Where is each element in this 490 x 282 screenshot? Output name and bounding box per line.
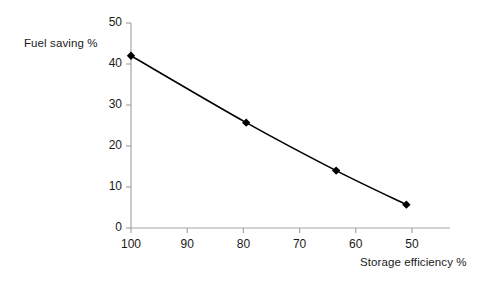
x-tick-label: 90 [170,237,204,251]
x-tick-label: 60 [339,237,373,251]
y-tick-label: 30 [92,97,122,111]
y-tick-label: 40 [92,56,122,70]
y-tick-label: 0 [92,220,122,234]
x-tick-label: 100 [114,237,148,251]
series-line-fuel-saving [131,56,406,205]
x-tick-label: 70 [283,237,317,251]
data-point-marker [332,166,340,174]
chart-container: Fuel saving % Storage efficiency % 01020… [0,0,490,282]
tick-marks [126,23,412,233]
data-point-marker [242,118,250,126]
y-tick-label: 10 [92,179,122,193]
y-tick-label: 20 [92,138,122,152]
y-tick-label: 50 [92,15,122,29]
data-point-marker [402,200,410,208]
data-point-marker [127,52,135,60]
x-tick-label: 80 [226,237,260,251]
axis-lines [131,23,450,228]
series-markers [127,52,411,209]
x-tick-label: 50 [395,237,429,251]
